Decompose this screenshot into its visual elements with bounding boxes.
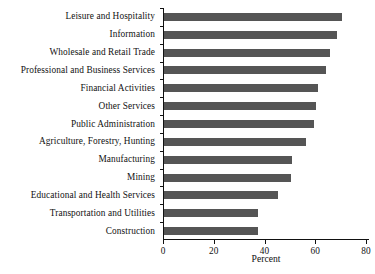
category-label: Educational and Health Services: [0, 190, 155, 200]
y-axis-tick: [160, 169, 163, 170]
y-axis-tick: [160, 8, 163, 9]
x-axis-tick: [265, 240, 266, 244]
y-axis-tick: [160, 79, 163, 80]
category-label: Mining: [0, 172, 155, 182]
x-axis-tick: [214, 240, 215, 244]
bar: [164, 49, 330, 57]
bar: [164, 209, 258, 217]
bar: [164, 227, 258, 235]
x-axis-tick: [366, 240, 367, 244]
y-axis-tick: [160, 186, 163, 187]
category-label: Agriculture, Forestry, Hunting: [0, 136, 155, 146]
plot-area: 020406080: [163, 8, 369, 240]
y-axis-tick: [160, 97, 163, 98]
y-axis-tick: [160, 44, 163, 45]
bar-chart: Leisure and HospitalityInformationWholes…: [0, 0, 375, 274]
category-label: Wholesale and Retail Trade: [0, 47, 155, 57]
category-label: Manufacturing: [0, 154, 155, 164]
x-axis-tick: [163, 240, 164, 244]
y-axis-tick: [160, 26, 163, 27]
bar: [164, 191, 278, 199]
bar: [164, 84, 318, 92]
bar: [164, 120, 314, 128]
y-axis-tick: [160, 62, 163, 63]
bar: [164, 31, 337, 39]
category-label: Financial Activities: [0, 83, 155, 93]
bar: [164, 174, 291, 182]
y-axis-tick: [160, 133, 163, 134]
bar: [164, 102, 316, 110]
category-label: Other Services: [0, 101, 155, 111]
category-label: Information: [0, 29, 155, 39]
x-axis-title: Percent: [163, 253, 369, 264]
category-label: Construction: [0, 226, 155, 236]
bar: [164, 156, 292, 164]
y-axis-tick: [160, 151, 163, 152]
category-label: Public Administration: [0, 119, 155, 129]
category-label: Leisure and Hospitality: [0, 11, 155, 21]
bar: [164, 138, 306, 146]
y-axis-tick: [160, 204, 163, 205]
y-axis-tick: [160, 222, 163, 223]
category-label: Transportation and Utilities: [0, 208, 155, 218]
x-axis-line: [163, 239, 369, 240]
bar: [164, 66, 326, 74]
x-axis-tick: [315, 240, 316, 244]
category-label: Professional and Business Services: [0, 65, 155, 75]
y-axis-tick: [160, 115, 163, 116]
category-axis-labels: Leisure and HospitalityInformationWholes…: [0, 8, 155, 240]
bar: [164, 13, 342, 21]
